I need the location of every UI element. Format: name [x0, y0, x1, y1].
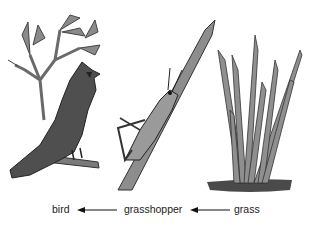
label-bird: bird: [52, 203, 70, 215]
label-grass: grass: [234, 203, 260, 215]
grass-icon: [218, 35, 302, 183]
bird-illustration: [8, 15, 100, 178]
food-chain-illustration: [0, 0, 323, 229]
arrow-grasshopper-to-bird: [77, 207, 117, 213]
grass-illustration: [207, 35, 302, 192]
arrow-grass-to-grasshopper: [190, 207, 230, 213]
label-grasshopper: grasshopper: [124, 203, 182, 215]
grasshopper-illustration: [118, 20, 215, 190]
